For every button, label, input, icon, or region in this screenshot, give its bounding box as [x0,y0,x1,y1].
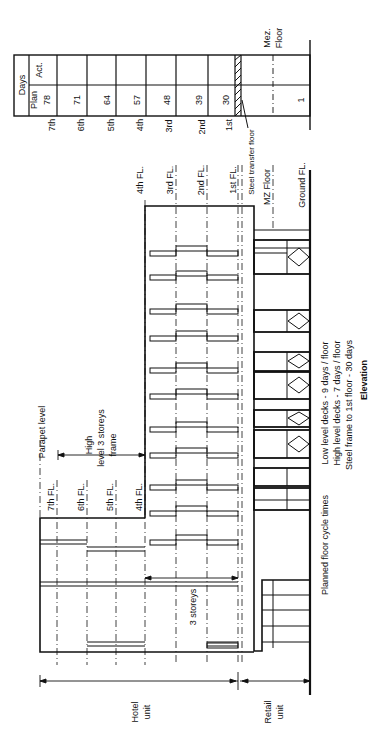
high-level-line2: level 3 storeys [96,409,106,467]
floor-4th: 4th [135,119,145,132]
hotel-unit-line2: unit [142,704,152,719]
mez-label-floor: Floor [274,28,284,49]
cycle-high-level: High level decks - 7 days / floor [332,340,342,465]
high-level-line3: frame [108,433,118,456]
floor-5th: 5th [106,119,116,132]
plan-4th: 57 [132,95,142,105]
plan-2nd: 39 [194,95,204,105]
floor-2nd: 2nd [197,119,207,134]
floor-6th: 6th [76,119,86,132]
label-parapet: Parapet level [37,406,47,459]
plan-5th: 64 [102,95,112,105]
floor-3rd: 3rd [164,119,174,132]
plan-6th: 71 [72,95,82,105]
column-stubs [150,246,238,648]
label-4th-fl-low: 4th FL. [135,166,145,194]
table-header-days: Days [17,74,27,95]
floor-slabs [40,540,238,646]
level-lines [40,165,273,665]
retail-unit-line2: unit [275,704,285,719]
caption-elevation: Elevation [359,360,369,400]
plan-7th: 78 [42,95,52,105]
table-row-act: Act. [34,62,44,78]
cycle-low-level: Low level decks - 9 days / floor [320,341,330,464]
cycle-steel-frame: Steel frame to 1st floor - 30 days [344,339,354,470]
steel-transfer-label: Steel transfer floor [247,129,256,195]
label-7th-fl: 7th FL. [46,483,56,511]
label-4th-fl-high: 4th FL. [134,483,144,511]
planned-cycle-label: Planned floor cycle times [320,494,330,595]
label-3rd-fl: 3rd FL. [165,166,175,195]
hotel-unit-line1: Hotel [130,701,140,722]
elevation-diagram: Days Act. Plan 78 71 64 57 48 39 30 1 7t… [0,0,383,736]
floor-7th: 7th [47,119,57,132]
label-5th-fl: 5th FL. [105,483,115,511]
label-2nd-fl: 2nd FL. [196,165,206,196]
mez-label: Mez. [262,28,272,48]
high-level-line1: High [84,436,94,455]
plan-3rd: 48 [162,95,172,105]
three-storeys-label: 3 storeys [188,588,198,625]
label-ground-fl: Ground FL. [297,162,307,208]
floor-cycle-table [14,40,310,130]
retail-unit-line1: Retail [263,700,273,723]
floor-1st: 1st [224,119,234,132]
label-1st-fl: 1st FL. [228,166,238,194]
label-mz-floor: MZ Floor [262,169,272,205]
plan-1st: 30 [221,95,231,105]
plan-mez: 1 [296,97,306,102]
label-6th-fl: 6th FL. [76,483,86,511]
table-row-plan: Plan [29,91,39,109]
